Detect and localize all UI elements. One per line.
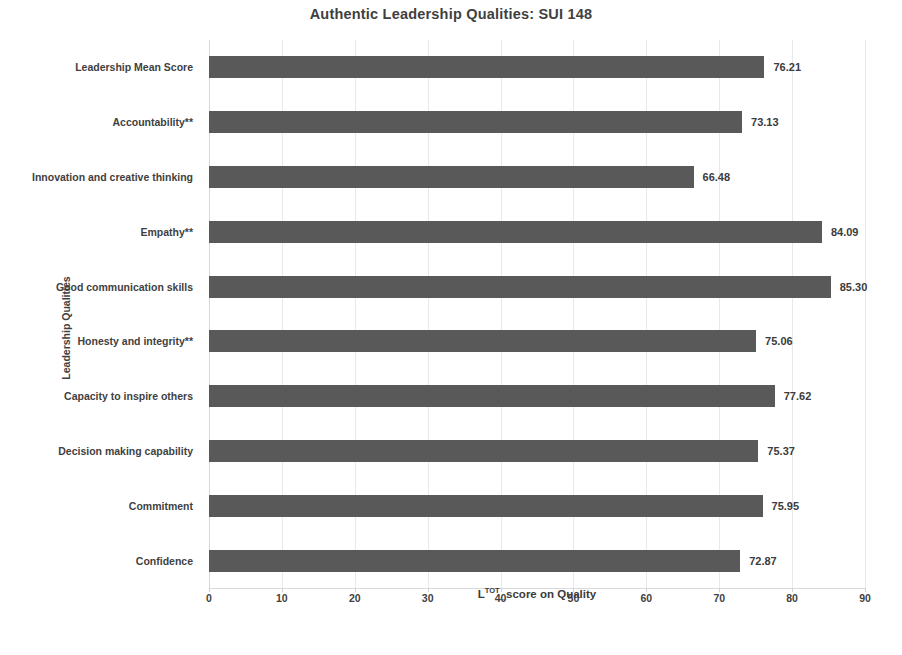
y-axis-tick-label: Accountability** (112, 95, 193, 150)
bar-value-label: 72.87 (749, 555, 777, 567)
bar-row[interactable]: 85.30 (209, 259, 865, 314)
x-axis-tick-label: 70 (713, 592, 725, 604)
y-axis-tick-labels: Leadership Mean ScoreAccountability**Inn… (0, 40, 201, 588)
bar-row[interactable]: 75.37 (209, 424, 865, 479)
x-axis-tick-label: 60 (640, 592, 652, 604)
bar-value-label: 75.37 (767, 445, 795, 457)
y-axis-tick-label: Commitment (129, 478, 193, 533)
y-axis-tick-label: Decision making capability (58, 424, 193, 479)
bar[interactable]: 75.06 (209, 330, 756, 352)
bar-series: 76.2173.1366.4884.0985.3075.0677.6275.37… (209, 40, 865, 588)
bar-row[interactable]: 84.09 (209, 204, 865, 259)
y-axis-tick-label: Good communication skills (56, 259, 193, 314)
gridline-90 (865, 40, 866, 588)
x-axis-tick-label: 20 (349, 592, 361, 604)
bar[interactable]: 85.30 (209, 276, 831, 298)
y-axis-tick-label: Innovation and creative thinking (32, 150, 193, 205)
y-axis-tick-label: Empathy** (140, 204, 193, 259)
y-axis-tick-label: Capacity to inspire others (64, 369, 193, 424)
bar-value-label: 84.09 (831, 226, 859, 238)
bar-value-label: 76.21 (773, 61, 801, 73)
x-axis-tick-label: 10 (276, 592, 288, 604)
bar-row[interactable]: 75.95 (209, 478, 865, 533)
bar[interactable]: 75.37 (209, 440, 758, 462)
y-axis-tick-label: Honesty and integrity** (77, 314, 193, 369)
bar-row[interactable]: 66.48 (209, 150, 865, 205)
bar-value-label: 73.13 (751, 116, 779, 128)
bar[interactable]: 77.62 (209, 385, 775, 407)
bar[interactable]: 73.13 (209, 111, 742, 133)
bar-value-label: 75.06 (765, 335, 793, 347)
chart-title: Authentic Leadership Qualities: SUI 148 (0, 6, 902, 22)
bar[interactable]: 84.09 (209, 221, 822, 243)
x-axis-tick-label: 90 (859, 592, 871, 604)
bar-value-label: 85.30 (840, 281, 868, 293)
bar-row[interactable]: 75.06 (209, 314, 865, 369)
bar[interactable]: 72.87 (209, 550, 740, 572)
x-axis-tick-label: 40 (495, 592, 507, 604)
bar-value-label: 75.95 (772, 500, 800, 512)
x-axis-tick-label: 0 (206, 592, 212, 604)
bar[interactable]: 66.48 (209, 166, 694, 188)
bar-value-label: 77.62 (784, 390, 812, 402)
y-axis-tick-label: Leadership Mean Score (75, 40, 193, 95)
bar-row[interactable]: 77.62 (209, 369, 865, 424)
x-axis-tick-label: 30 (422, 592, 434, 604)
bar-row[interactable]: 76.21 (209, 40, 865, 95)
bar[interactable]: 76.21 (209, 56, 764, 78)
plot-area: 76.2173.1366.4884.0985.3075.0677.6275.37… (209, 40, 865, 588)
x-axis-tick-label: 50 (568, 592, 580, 604)
bar-value-label: 66.48 (703, 171, 731, 183)
bar-row[interactable]: 72.87 (209, 533, 865, 588)
bar[interactable]: 75.95 (209, 495, 763, 517)
y-axis-tick-label: Confidence (136, 533, 193, 588)
x-axis-tick-labels: 0102030405060708090 (209, 592, 865, 616)
bar-row[interactable]: 73.13 (209, 95, 865, 150)
chart-container: Authentic Leadership Qualities: SUI 148 … (0, 0, 902, 655)
x-axis-tick-label: 80 (786, 592, 798, 604)
